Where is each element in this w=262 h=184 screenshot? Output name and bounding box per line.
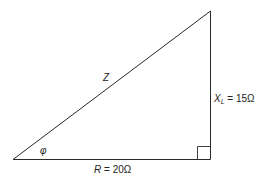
impedance-hypotenuse — [13, 11, 211, 160]
resistance-symbol: R — [94, 164, 101, 175]
angle-phi-label: φ — [40, 145, 47, 156]
resistance-label: R = 20Ω — [94, 164, 132, 175]
right-angle-marker — [198, 147, 211, 160]
reactance-value: = 15Ω — [225, 93, 256, 104]
impedance-triangle-diagram: Z φ R = 20Ω XL = 15Ω — [0, 0, 262, 184]
resistance-value: = 20Ω — [101, 164, 132, 175]
hypotenuse-label: Z — [102, 72, 110, 83]
reactance-label: XL = 15Ω — [213, 93, 255, 105]
